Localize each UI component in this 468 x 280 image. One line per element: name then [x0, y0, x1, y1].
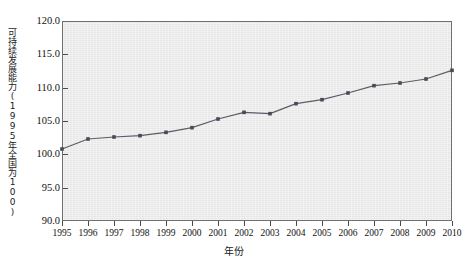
x-axis-tick-label: 1997 — [105, 228, 124, 238]
x-axis-tick-mark — [114, 221, 115, 226]
x-axis-tick-label: 1998 — [131, 228, 150, 238]
x-axis-tick-mark — [192, 221, 193, 226]
data-point-marker: 2007: 110.3 — [372, 84, 376, 88]
data-point-marker: 2009: 111.3 — [424, 77, 428, 81]
x-axis-tick-label: 2000 — [183, 228, 202, 238]
data-point-marker: 2001: 105.3 — [216, 117, 220, 121]
y-axis-tick-label: 105.0 — [22, 116, 60, 127]
x-axis-tick-label: 1995 — [53, 228, 72, 238]
chart-container: 可持续发展能力(1995年全国为100) 120.0115.0110.0105.… — [0, 0, 468, 280]
x-axis-tick-label: 2005 — [313, 228, 332, 238]
x-axis-tick-mark — [62, 221, 63, 226]
x-axis-tick-mark — [348, 221, 349, 226]
y-axis-tick-mark — [63, 88, 68, 89]
line-series-layer: 1995: 100.81996: 102.31997: 102.61998: 1… — [62, 21, 452, 221]
y-axis-tick-label: 100.0 — [22, 149, 60, 160]
y-axis-title: 可持续发展能力(1995年全国为100) — [4, 22, 20, 222]
data-point-marker: 1999: 103.3 — [164, 131, 168, 135]
x-axis-tick-label: 2009 — [417, 228, 436, 238]
data-point-marker: 2003: 106.1 — [268, 112, 272, 116]
y-axis-tick-mark — [63, 121, 68, 122]
data-point-marker: 1996: 102.3 — [86, 137, 90, 141]
data-point-marker: 2005: 108.2 — [320, 98, 324, 102]
x-axis-tick-mark — [452, 221, 453, 226]
x-axis-tick-mark — [374, 221, 375, 226]
x-axis-tick-mark — [244, 221, 245, 226]
x-axis-tick-label: 2010 — [443, 228, 462, 238]
x-axis-tick-mark — [166, 221, 167, 226]
x-axis-title: 年份 — [0, 243, 468, 258]
y-axis-tick-mark — [63, 188, 68, 189]
x-axis-tick-mark — [140, 221, 141, 226]
y-axis-tick-label: 110.0 — [22, 82, 60, 93]
x-axis-tick-mark — [426, 221, 427, 226]
x-axis-tick-label: 2003 — [261, 228, 280, 238]
data-point-marker: 2004: 107.6 — [294, 102, 298, 106]
x-axis-tick-label: 2002 — [235, 228, 254, 238]
x-axis-tick-label: 2004 — [287, 228, 306, 238]
x-axis-tick-label: 2006 — [339, 228, 358, 238]
data-point-marker: 1997: 102.6 — [112, 135, 116, 139]
y-axis-tick-label: 115.0 — [22, 49, 60, 60]
data-point-marker: 2000: 104 — [190, 126, 194, 130]
x-axis-tick-label: 2008 — [391, 228, 410, 238]
x-axis-tick-mark — [270, 221, 271, 226]
data-point-marker: 2008: 110.7 — [398, 81, 402, 85]
series-line — [62, 70, 452, 149]
y-axis-tick-label: 90.0 — [22, 216, 60, 227]
x-axis-tick-label: 1999 — [157, 228, 176, 238]
x-axis-tick-mark — [296, 221, 297, 226]
y-axis-tick-mark — [63, 154, 68, 155]
data-point-marker: 1995: 100.8 — [60, 147, 64, 151]
y-axis-tick-labels: 120.0115.0110.0105.0100.095.090.0 — [22, 0, 60, 280]
x-axis-tick-mark — [218, 221, 219, 226]
data-point-marker: 2010: 112.6 — [450, 69, 454, 73]
x-axis-tick-mark — [400, 221, 401, 226]
y-axis-tick-label: 120.0 — [22, 16, 60, 27]
x-axis-tick-label: 2001 — [209, 228, 228, 238]
data-point-marker: 1998: 102.8 — [138, 134, 142, 138]
x-axis-tick-label: 1996 — [79, 228, 98, 238]
data-point-marker: 2006: 109.2 — [346, 91, 350, 95]
y-axis-tick-mark — [63, 54, 68, 55]
y-axis-tick-label: 95.0 — [22, 182, 60, 193]
x-axis-tick-label: 2007 — [365, 228, 384, 238]
x-axis-tick-mark — [322, 221, 323, 226]
x-axis-tick-mark — [88, 221, 89, 226]
data-point-marker: 2002: 106.3 — [242, 111, 246, 115]
